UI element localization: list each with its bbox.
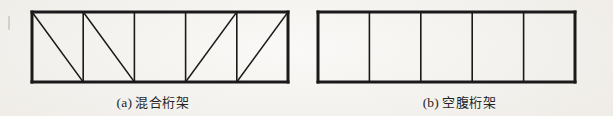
figure-caption-b-text: 空腹桁架 [442,95,496,110]
figure-caption-b: (b)空腹桁架 [306,92,613,111]
figure-caption-a-text: 混合桁架 [135,95,189,110]
figure-caption-a: (a)混合桁架 [0,92,306,111]
figure-panel-b: (b)空腹桁架 [306,0,613,116]
truss-diagram-b [306,0,613,92]
truss-diagram-a [0,0,306,92]
diagonal-member-4 [186,12,237,82]
diagonal-member-5 [237,12,288,82]
diagonal-member-2 [83,12,134,82]
figure-panel-a: (a)混合桁架 [0,0,306,116]
diagonal-member-1 [32,12,83,82]
figure-caption-a-label: (a) [117,95,133,110]
figure-caption-b-label: (b) [423,95,439,110]
figure-sheet: (a)混合桁架 (b)空腹桁架 [0,0,613,116]
